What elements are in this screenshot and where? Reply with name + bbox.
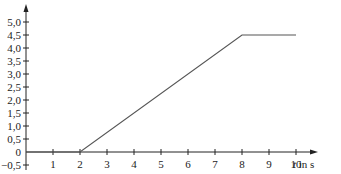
y-tick-label: 4,0 [7, 42, 21, 54]
x-axis-label-unit: in s [296, 158, 314, 170]
y-tick-label: 2,5 [7, 81, 21, 93]
x-axis-arrow-icon [310, 150, 318, 155]
x-tick-label: 4 [131, 158, 137, 170]
y-tick-label: 2,0 [7, 94, 21, 106]
x-tick-label: 3 [104, 158, 110, 170]
x-axis-label: t in s [293, 158, 314, 170]
x-tick-label: 2 [77, 158, 83, 170]
data-line [26, 35, 296, 152]
y-axis-arrow-icon [24, 4, 29, 12]
x-tick-label: 6 [185, 158, 191, 170]
y-tick-label: 3,0 [7, 68, 21, 80]
y-tick-label: 0,5 [7, 133, 21, 145]
x-tick-label: 8 [239, 158, 245, 170]
x-tick-label: 9 [266, 158, 272, 170]
line-chart: 5,04,54,03,53,02,52,01,51,00,50−0,5 1234… [0, 0, 341, 174]
y-tick-label: 0 [16, 146, 22, 158]
y-tick-label: −0,5 [1, 159, 21, 171]
y-tick-label: 3,5 [7, 55, 21, 67]
y-tick-label: 5,0 [7, 16, 21, 28]
y-tick-label: 1,5 [7, 107, 21, 119]
y-tick-label: 1,0 [7, 120, 21, 132]
y-tick-label: 4,5 [7, 29, 21, 41]
x-tick-label: 5 [158, 158, 164, 170]
y-ticks: 5,04,54,03,53,02,52,01,51,00,50−0,5 [1, 16, 29, 171]
x-tick-label: 1 [50, 158, 56, 170]
x-tick-label: 7 [212, 158, 218, 170]
